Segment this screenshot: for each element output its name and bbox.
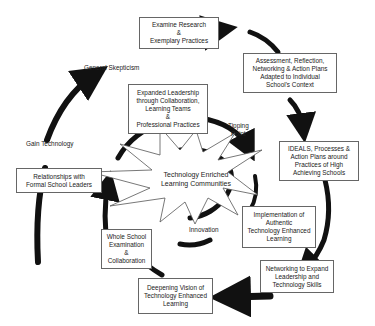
box-text: Networking & Action Plans	[246, 65, 334, 73]
outer-arc-bottom	[230, 296, 270, 297]
center-text: Learning Communities	[151, 179, 241, 188]
box-text: Networking to Expand	[263, 265, 331, 273]
box-text: &	[104, 249, 149, 257]
label-gain-technology: Gain Technology	[26, 140, 74, 148]
box-text: Implementation of	[245, 211, 313, 219]
label-innovation: Innovation	[189, 226, 219, 234]
box-text: Leadership and	[263, 273, 331, 281]
box-text: Collaboration	[104, 257, 149, 265]
box-text: School's Context	[246, 81, 334, 89]
box-text: Exemplary Practices	[142, 37, 216, 45]
box-networking: Networking to Expand Leadership and Tech…	[260, 260, 334, 293]
box-text: Expanded Leadership	[131, 89, 205, 97]
box-ideals: IDEALS, Processes & Action Plans around …	[279, 141, 359, 181]
outer-arc-upleft	[47, 76, 93, 140]
box-implementation: Implementation of Authentic Technology E…	[242, 206, 316, 248]
box-text: &	[142, 29, 216, 37]
inner-arc-bottom	[180, 240, 210, 245]
box-text: &	[131, 113, 205, 121]
label-text: Tipping	[228, 122, 249, 130]
box-text: IDEALS, Processes &	[282, 145, 356, 153]
box-text: Action Plans around	[282, 153, 356, 161]
center-label: Technology Enriched Learning Communities	[151, 170, 241, 188]
outer-arc-topright	[250, 32, 278, 52]
box-text: Practices of High	[282, 161, 356, 169]
box-relationships: Relationships with Formal School Leaders	[16, 168, 102, 193]
label-general-skepticism: General Skepticism	[84, 64, 139, 72]
box-text: Whole School	[104, 233, 149, 241]
outer-arc-right	[290, 100, 303, 128]
box-text: Learning	[245, 235, 313, 243]
box-text: Relationships with	[19, 173, 99, 181]
label-tipping-point: Tipping Point	[228, 122, 249, 138]
box-text: Examination	[104, 241, 149, 249]
box-text: Technology Enhanced	[141, 292, 210, 300]
box-text: Assessment, Reflection,	[246, 57, 334, 65]
box-text: Examine Research	[142, 21, 216, 29]
box-text: Technology Enhanced	[245, 227, 313, 235]
box-text: Achieving Schools	[282, 169, 356, 177]
box-text: Authentic	[245, 219, 313, 227]
box-whole-school: Whole School Examination & Collaboration	[101, 229, 152, 269]
box-text: through Collaboration,	[131, 97, 205, 105]
box-deepening-vision: Deepening Vision of Technology Enhanced …	[138, 278, 213, 314]
center-text: Technology Enriched	[151, 170, 241, 179]
box-expanded-leadership: Expanded Leadership through Collaboratio…	[128, 84, 208, 134]
box-assessment-reflection: Assessment, Reflection, Networking & Act…	[243, 53, 337, 93]
box-examine-research: Examine Research & Exemplary Practices	[139, 17, 219, 49]
box-text: Professional Practices	[131, 121, 205, 129]
box-text: Learning Teams	[131, 105, 205, 113]
box-text: Deepening Vision of	[141, 284, 210, 292]
box-text: Adapted to Individual	[246, 73, 334, 81]
box-text: Formal School Leaders	[19, 181, 99, 189]
box-text: Learning	[141, 300, 210, 308]
box-text: Technology Skills	[263, 281, 331, 289]
label-text: Point	[228, 130, 249, 138]
